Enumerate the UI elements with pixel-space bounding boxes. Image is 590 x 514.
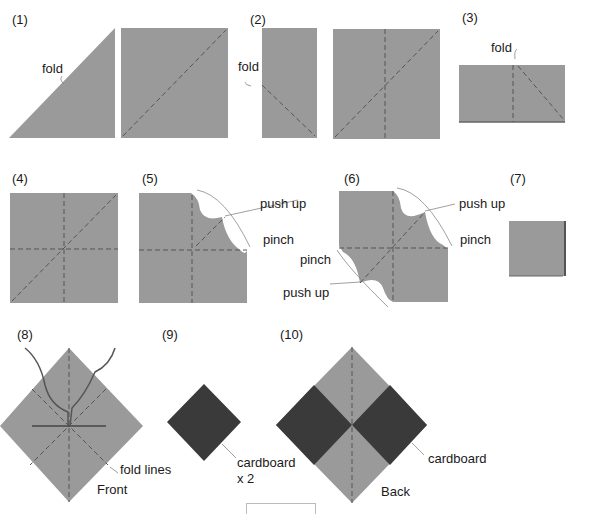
step-1-fold-label: fold — [42, 62, 63, 75]
step-1-number: (1) — [12, 13, 28, 26]
step-6-pinch-label-right: pinch — [460, 233, 491, 246]
step-6-square — [330, 188, 455, 307]
step-10-number: (10) — [280, 328, 303, 341]
step-2-square — [333, 29, 440, 139]
step-7-number: (7) — [510, 172, 526, 185]
step-6-number: (6) — [344, 172, 360, 185]
step-8-fold-lines-label: fold lines — [120, 463, 171, 476]
step-5-pinch-label: pinch — [263, 233, 294, 246]
step-9-cardboard-diamond — [167, 384, 241, 461]
step-8-front-diamond — [0, 348, 143, 502]
step-9-cardboard-label: cardboard — [237, 456, 296, 469]
step-1-triangle — [9, 28, 115, 138]
step-6-pinch-label-left: pinch — [300, 253, 331, 266]
bottom-box-outline — [246, 503, 316, 514]
step-6-push-up-label-bottom: push up — [283, 286, 329, 299]
step-10-back-label: Back — [381, 485, 410, 498]
step-1-square — [121, 28, 228, 138]
step-8-front-label: Front — [97, 483, 127, 496]
step-9-quantity-label: x 2 — [237, 472, 254, 485]
step-4-square — [10, 193, 118, 303]
step-2-fold-label: fold — [238, 60, 259, 73]
step-3-fold-label: fold — [491, 41, 512, 54]
step-2-rectangle — [245, 28, 317, 138]
step-5-number: (5) — [142, 172, 158, 185]
step-4-number: (4) — [12, 172, 28, 185]
step-5-push-up-label: push up — [260, 197, 306, 210]
step-10-cardboard-label: cardboard — [428, 452, 487, 465]
step-3-number: (3) — [462, 11, 478, 24]
step-7-folded-square — [509, 221, 565, 276]
step-6-push-up-label-top: push up — [459, 197, 505, 210]
step-8-number: (8) — [17, 328, 33, 341]
step-2-number: (2) — [250, 13, 266, 26]
step-9-number: (9) — [162, 328, 178, 341]
step-3-rectangle — [459, 49, 565, 122]
step-10-back-diamond — [276, 347, 427, 503]
